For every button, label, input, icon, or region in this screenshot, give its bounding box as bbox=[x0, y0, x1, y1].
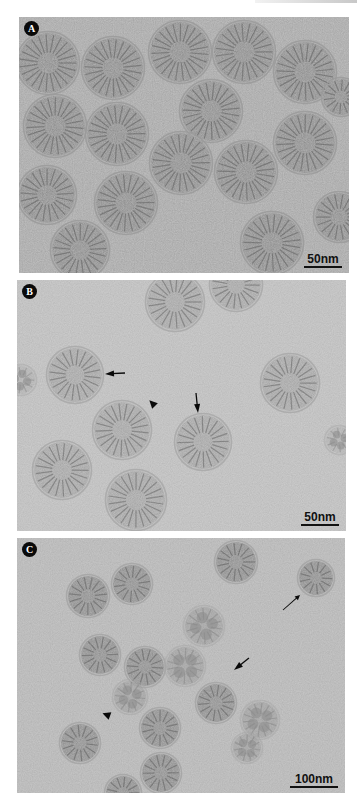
micrograph-panel-a: A 50nm bbox=[19, 17, 349, 273]
scale-bar-a-line bbox=[304, 266, 342, 268]
scale-bar-b: 50nm bbox=[301, 511, 339, 526]
scale-bar-c-line bbox=[290, 786, 338, 788]
micrograph-c-image bbox=[17, 538, 345, 793]
micrograph-panel-c: C 100nm bbox=[17, 538, 345, 793]
scale-bar-a-label: 50nm bbox=[304, 253, 342, 265]
micrograph-panel-b: B 50nm bbox=[17, 280, 346, 531]
micrograph-a-image bbox=[19, 17, 349, 273]
top-rule bbox=[255, 0, 357, 3]
panel-label-b: B bbox=[22, 284, 37, 299]
panel-label-a: A bbox=[24, 21, 39, 36]
scale-bar-a: 50nm bbox=[304, 253, 342, 268]
scale-bar-b-line bbox=[301, 524, 339, 526]
scale-bar-b-label: 50nm bbox=[301, 511, 339, 523]
scale-bar-c: 100nm bbox=[290, 773, 338, 788]
scale-bar-c-label: 100nm bbox=[290, 773, 338, 785]
panel-label-c: C bbox=[22, 542, 37, 557]
micrograph-b-image bbox=[17, 280, 346, 531]
